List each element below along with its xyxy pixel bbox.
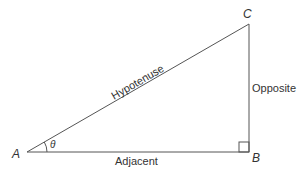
right-triangle-diagram: A B C θ Hypotenuse Opposite Adjacent: [0, 0, 302, 178]
right-angle-marker: [239, 142, 249, 152]
vertex-b-label: B: [252, 151, 260, 165]
hypotenuse-label: Hypotenuse: [109, 62, 166, 102]
angle-arc: [44, 142, 47, 152]
theta-label: θ: [50, 139, 56, 150]
adjacent-label: Adjacent: [115, 155, 158, 167]
opposite-label: Opposite: [252, 82, 296, 94]
vertex-c-label: C: [243, 7, 252, 21]
vertex-a-label: A: [11, 147, 20, 161]
